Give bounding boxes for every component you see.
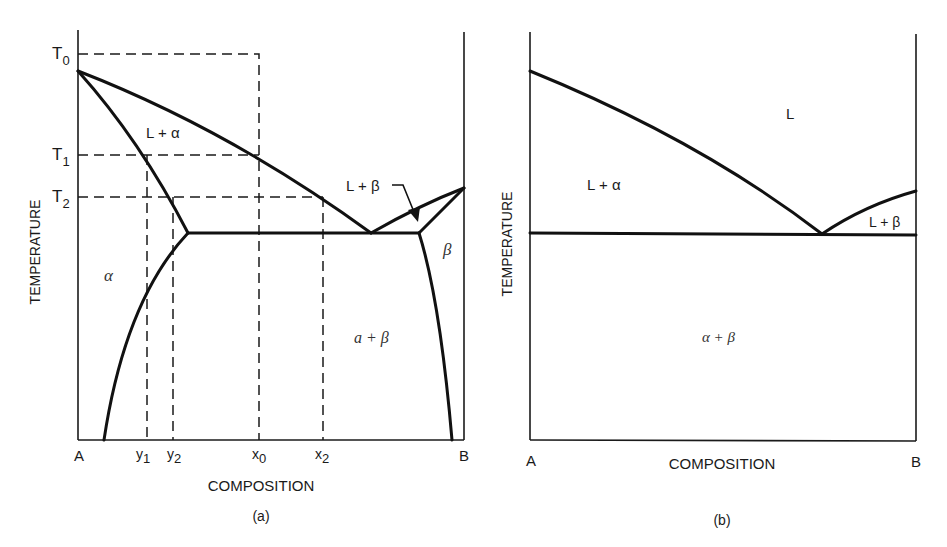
panel-b-region-liquid: L (786, 105, 794, 122)
panel-a-tick-x0: x0 (252, 446, 266, 466)
panel-a-l-beta-arrow-line (392, 185, 414, 212)
panel-a-region-beta: β (442, 240, 452, 259)
panel-a-solvus-beta (419, 233, 452, 440)
panel-b-bottom-axis (530, 440, 916, 441)
panel-a-end-A: A (74, 447, 84, 464)
panel-a-region-l-alpha: L + α (146, 124, 180, 141)
panel-a-region-alpha-beta: a + β (354, 329, 389, 347)
panel-a-tick-T1: T1 (52, 145, 70, 169)
panel-b-end-B: B (911, 453, 921, 470)
panel-a-xlabel: COMPOSITION (208, 477, 315, 494)
panel-a-tick-x2: x2 (315, 446, 329, 466)
panel-a-arrowhead-icon (408, 207, 420, 222)
panel-a-tick-y1: y1 (136, 446, 150, 466)
panel-a-tick-T2: T2 (52, 187, 70, 211)
panel-b-region-alpha-beta: α + β (702, 329, 735, 345)
panel-b-ylabel: TEMPERATURE (499, 192, 515, 297)
panel-b-xlabel: COMPOSITION (669, 455, 776, 472)
panel-b-caption: (b) (713, 512, 730, 528)
panel-b-region-l-alpha: L + α (587, 176, 621, 193)
panel-a-tick-y2: y2 (167, 446, 181, 466)
panel-a-solvus-alpha (104, 233, 188, 440)
panel-a-ylabel: TEMPERATURE (27, 200, 43, 305)
panel-a-liquidus-left (78, 71, 371, 233)
panel-a-solidus-beta (419, 188, 464, 233)
panel-b-end-A: A (526, 452, 536, 469)
panel-a-region-l-beta: L + β (346, 177, 380, 194)
panel-b-eutectic-line (530, 233, 916, 235)
panel-b: A B COMPOSITION TEMPERATURE (b) L L + α … (499, 32, 921, 528)
panel-a-caption: (a) (252, 508, 269, 524)
panel-a-end-B: B (459, 447, 469, 464)
phase-diagrams: T0 T1 T2 A y1 y2 x0 x2 B COMPOSITION TEM… (0, 0, 947, 547)
panel-a-tick-T0: T0 (52, 44, 70, 68)
panel-a-region-alpha: α (104, 266, 114, 285)
panel-b-region-l-beta: L + β (869, 214, 900, 230)
panel-a: T0 T1 T2 A y1 y2 x0 x2 B COMPOSITION TEM… (27, 30, 469, 524)
panel-b-liquidus-left (530, 71, 822, 234)
